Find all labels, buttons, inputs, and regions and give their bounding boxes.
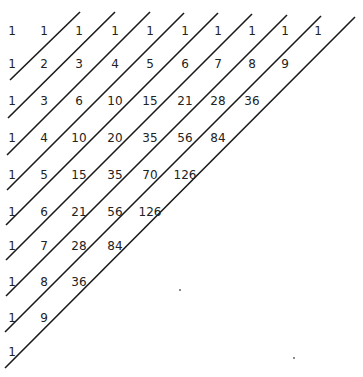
grid-cell: 84: [210, 132, 225, 144]
diagonal-line: [5, 16, 321, 332]
grid-cell: 56: [107, 206, 122, 218]
grid-cell: 3: [75, 58, 83, 70]
grid-cell: 1: [314, 25, 322, 37]
grid-cell: 1: [8, 25, 16, 37]
grid-cell: 126: [174, 169, 197, 181]
grid-cell: 1: [181, 25, 189, 37]
grid-cell: 9: [281, 58, 289, 70]
grid-cell: 8: [40, 276, 48, 288]
grid-cell: 1: [75, 25, 83, 37]
grid-cell: 1: [248, 25, 256, 37]
grid-cell: 1: [111, 25, 119, 37]
grid-cell: 5: [40, 169, 48, 181]
grid-cell: 10: [71, 132, 86, 144]
grid-cell: 1: [8, 169, 16, 181]
grid-cell: 1: [40, 25, 48, 37]
grid-cell: 56: [177, 132, 192, 144]
grid-cell: 70: [142, 169, 157, 181]
grid-cell: 1: [8, 240, 16, 252]
grid-cell: 2: [40, 58, 48, 70]
diagonal-line: [8, 12, 115, 118]
grid-cell: 5: [146, 58, 154, 70]
pascal-triangle-diagram: 1111111111123456789136101521283614102035…: [0, 0, 363, 377]
grid-cell: 15: [142, 95, 157, 107]
grid-cell: 36: [71, 276, 86, 288]
grid-cell: 35: [107, 169, 122, 181]
grid-cell: 7: [40, 240, 48, 252]
grid-cell: 6: [181, 58, 189, 70]
grid-cell: 9: [40, 312, 48, 324]
grid-cell: 6: [40, 206, 48, 218]
speck: [293, 357, 295, 359]
speck: [179, 289, 181, 291]
grid-cell: 1: [8, 206, 16, 218]
grid-cell: 3: [40, 95, 48, 107]
grid-cell: 35: [142, 132, 157, 144]
grid-cell: 84: [107, 240, 122, 252]
grid-cell: 1: [8, 132, 16, 144]
grid-cell: 1: [8, 346, 16, 358]
grid-cell: 10: [107, 95, 122, 107]
grid-cell: 126: [139, 206, 162, 218]
grid-cell: 1: [214, 25, 222, 37]
grid-cell: 1: [8, 58, 16, 70]
grid-cell: 1: [146, 25, 154, 37]
grid-cell: 36: [244, 95, 259, 107]
grid-cell: 21: [177, 95, 192, 107]
grid-cell: 1: [8, 95, 16, 107]
grid-cell: 1: [8, 312, 16, 324]
diagonal-line: [6, 13, 218, 225]
grid-cell: 15: [71, 169, 86, 181]
grid-cell: 6: [75, 95, 83, 107]
grid-cell: 4: [111, 58, 119, 70]
grid-cell: 1: [8, 276, 16, 288]
grid-cell: 28: [210, 95, 225, 107]
grid-cell: 7: [214, 58, 222, 70]
grid-cell: 28: [71, 240, 86, 252]
grid-cell: 4: [40, 132, 48, 144]
grid-cell: 21: [71, 206, 86, 218]
grid-cell: 1: [281, 25, 289, 37]
grid-cell: 20: [107, 132, 122, 144]
grid-cell: 8: [248, 58, 256, 70]
